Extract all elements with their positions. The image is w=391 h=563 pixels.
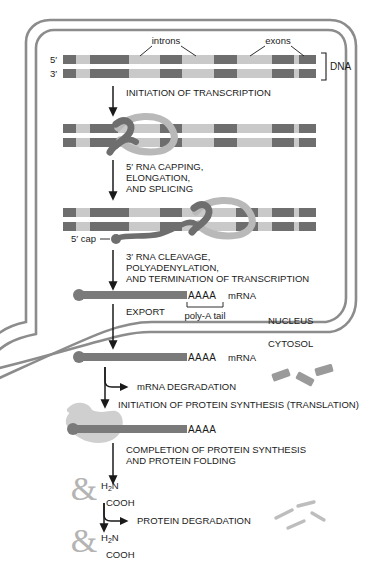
step-cleavage-polyadenylation: 3′ RNA CLEAVAGE, POLYADENYLATION, AND TE… [113, 250, 309, 286]
nucleus-label: NUCLEUS [268, 315, 313, 326]
poly-a-sequence: AAAA [188, 424, 216, 435]
cytosol-label: CYTOSOL [268, 338, 313, 349]
protein-glyph: & [71, 522, 97, 559]
amino-terminus-label: H2N [101, 532, 119, 544]
mrna-body [79, 291, 187, 299]
step-label: PROTEIN DEGRADATION [137, 515, 251, 526]
dna-5prime-label: 5′ [50, 54, 57, 65]
cytosolic-mrna: AAAA mRNA [73, 351, 257, 363]
step-export: EXPORT [113, 304, 165, 345]
transcription-complex [63, 116, 316, 152]
mrna-body [79, 353, 187, 361]
step-label-line2: ELONGATION, [126, 172, 190, 183]
step-label: EXPORT [126, 306, 165, 317]
poly-a-sequence: AAAA [188, 290, 216, 301]
folded-protein-2: & H2N COOH [71, 522, 135, 560]
amino-terminus-label: H2N [101, 480, 119, 492]
step-label: INITIATION OF PROTEIN SYNTHESIS (TRANSLA… [118, 399, 359, 410]
mrna-label: mRNA [228, 290, 257, 301]
five-prime-cap-dot [111, 234, 121, 244]
carboxy-terminus-label: COOH [106, 549, 135, 560]
poly-a-sequence: AAAA [188, 352, 216, 363]
folded-protein-1: & H2N COOH [71, 470, 135, 508]
poly-a-bracket [187, 302, 223, 307]
step-mrna-degradation: mRNA DEGRADATION [105, 367, 236, 392]
protein-fragments [276, 502, 324, 528]
carboxy-terminus-label: COOH [106, 497, 135, 508]
step-capping-elongation-splicing: 5′ RNA CAPPING, ELONGATION, AND SPLICING [113, 160, 203, 196]
step-label: mRNA DEGRADATION [137, 381, 236, 392]
step-completion-folding: COMPLETION OF PROTEIN SYNTHESIS AND PROT… [113, 443, 306, 480]
dna-annotation-leaders [140, 46, 304, 56]
step-label-line1: 3′ RNA CLEAVAGE, [126, 251, 210, 262]
diagram-canvas: 5′ 3′ DNA [0, 0, 391, 563]
step-label-line2: POLYADENYLATION, [126, 262, 219, 273]
protein-glyph: & [71, 470, 97, 507]
dna-bracket [321, 53, 326, 80]
ribosome-mrna-complex: AAAA [66, 406, 216, 443]
mrna-label: mRNA [228, 352, 257, 363]
dna-label: DNA [330, 61, 351, 72]
step-label: INITIATION OF TRANSCRIPTION [126, 87, 271, 98]
five-prime-cap-label: 5′ cap [71, 233, 96, 244]
step-label-line3: AND TERMINATION OF TRANSCRIPTION [126, 273, 309, 284]
dna-molecule: 5′ 3′ DNA [50, 35, 351, 80]
step-label-line2: AND PROTEIN FOLDING [126, 455, 236, 466]
poly-a-tail-label: poly-A tail [184, 310, 225, 321]
exons-label: exons [265, 35, 291, 46]
step-label-line1: 5′ RNA CAPPING, [126, 161, 203, 172]
mrna-fragments [271, 364, 334, 387]
mrna-body [73, 425, 187, 433]
step-initiation-transcription: INITIATION OF TRANSCRIPTION [113, 86, 271, 112]
step-label-line3: AND SPLICING [126, 183, 193, 194]
introns-label: introns [152, 35, 181, 46]
dna-3prime-label: 3′ [50, 68, 57, 79]
step-label-line1: COMPLETION OF PROTEIN SYNTHESIS [126, 444, 306, 455]
splicing-complex: 5′ cap [63, 200, 316, 244]
